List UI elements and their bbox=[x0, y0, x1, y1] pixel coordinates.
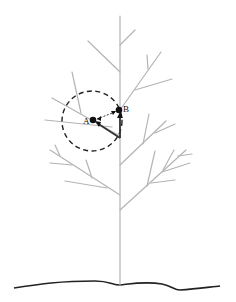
diagram-canvas: A B bbox=[0, 0, 236, 302]
ground-line bbox=[14, 281, 220, 290]
top-branches bbox=[88, 30, 135, 72]
vector-to-a bbox=[97, 123, 120, 138]
point-a bbox=[90, 117, 97, 124]
lower-left-branches bbox=[50, 145, 120, 195]
tree-diagram: A B bbox=[0, 0, 236, 302]
label-b: B bbox=[123, 104, 129, 114]
upper-left-branches bbox=[45, 72, 120, 136]
upper-right-branches bbox=[120, 52, 172, 110]
growth-vectors bbox=[95, 111, 123, 138]
label-a: A bbox=[83, 116, 90, 126]
point-b bbox=[116, 107, 123, 114]
middle-right-branches bbox=[120, 114, 192, 210]
